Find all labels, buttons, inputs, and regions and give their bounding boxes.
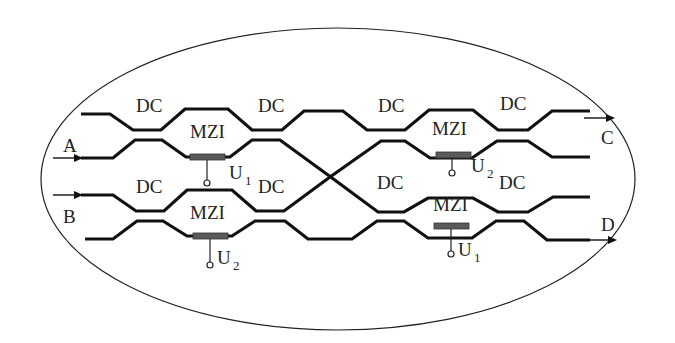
port-label-c: C [601,127,614,148]
voltage-label-top-left: U 1 [229,162,252,188]
mzi-label-top-left: MZI [190,121,225,142]
mzi-label-bottom-right: MZI [433,194,468,215]
dc-label-top-2: DC [258,95,284,116]
port-label-a: A [63,135,77,156]
arrow-input-b-icon [53,191,83,199]
port-label-b: B [63,206,76,227]
dc-label-top-3: DC [378,95,404,116]
svg-text:1: 1 [245,173,252,188]
pad-bottom-right [448,251,454,257]
mzi-label-top-right: MZI [432,118,467,139]
svg-text:U: U [229,162,243,183]
svg-text:U: U [217,247,231,268]
heater-bottom-left [193,233,228,239]
dc-label-bottom-1: DC [136,176,162,197]
waveguide-bottom-left-lower [85,221,590,240]
dc-label-bottom-2: DC [258,176,284,197]
dc-label-top-4: DC [500,93,526,114]
port-label-d: D [601,214,615,235]
svg-text:1: 1 [474,250,481,265]
dc-label-bottom-3: DC [377,172,403,193]
voltage-label-bottom-right: U 1 [458,239,481,265]
dc-label-bottom-4: DC [499,172,525,193]
voltage-label-bottom-left: U 2 [217,247,240,273]
heater-bottom-right [434,223,469,229]
svg-text:2: 2 [487,166,494,181]
photonic-circuit-diagram: A B C D DC DC DC DC DC DC DC DC MZI MZI … [0,0,675,343]
heater-top-right [436,152,471,158]
heater-top-left [190,154,225,160]
mzi-label-bottom-left: MZI [190,202,225,223]
arrow-output-c-icon [584,114,615,122]
svg-text:U: U [471,155,485,176]
voltage-label-top-right: U 2 [471,155,494,181]
svg-text:U: U [458,239,472,260]
chip-boundary-ellipse [41,28,635,330]
dc-label-top-1: DC [136,95,162,116]
pad-top-right [449,170,455,176]
svg-text:2: 2 [233,258,240,273]
pad-bottom-left [207,262,213,268]
pad-top-left [204,180,210,186]
